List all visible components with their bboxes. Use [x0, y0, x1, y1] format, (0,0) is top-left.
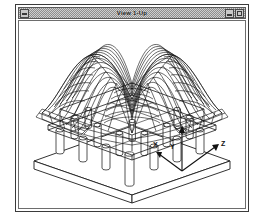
title-bar[interactable]: View 1-Up [18, 7, 246, 19]
application-window: View 1-Up [15, 4, 249, 212]
axis-x-label: X [153, 141, 158, 148]
minimize-icon[interactable] [225, 9, 234, 18]
axis-z-label: Z [221, 140, 226, 147]
screenshot-root: View 1-Up [0, 0, 257, 220]
wireframe-drawing: Y X Z [19, 21, 246, 209]
window-controls [225, 9, 244, 18]
axis-y-label: Y [170, 143, 175, 150]
3d-model-viewport[interactable]: Y X Z [19, 21, 245, 208]
client-area: Y X Z [18, 20, 246, 209]
maximize-icon[interactable] [235, 9, 244, 18]
system-menu-icon[interactable] [20, 9, 29, 18]
window-title: View 1-Up [19, 8, 245, 18]
